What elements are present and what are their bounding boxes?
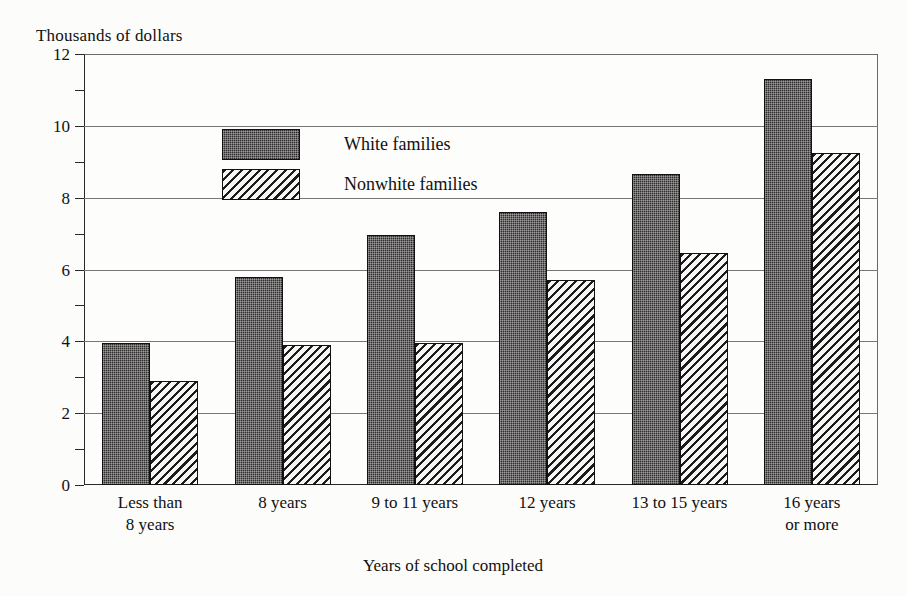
y-tick-label-10: 10	[53, 117, 70, 134]
legend-label-nonwhite-families: Nonwhite families	[344, 174, 477, 195]
x-axis-label-3: 12 years	[481, 492, 613, 514]
y-axis-title: Thousands of dollars	[36, 26, 183, 46]
bar-nonwhite-5	[812, 153, 860, 485]
bar-nonwhite-2	[415, 343, 463, 485]
y-tick-minor-7	[75, 234, 84, 235]
y-tick-label-12: 12	[53, 46, 70, 63]
bar-nonwhite-0	[150, 381, 198, 485]
x-axis-title: Years of school completed	[0, 556, 906, 576]
y-tick-minor-5	[75, 305, 84, 306]
x-axis-label-2: 9 to 11 years	[349, 492, 481, 514]
bar-nonwhite-3	[547, 280, 595, 485]
chart-legend: White families Nonwhite families	[222, 124, 552, 204]
y-tick-10	[75, 126, 84, 127]
gridline-4	[84, 341, 878, 342]
y-tick-minor-9	[75, 162, 84, 163]
bar-white-4	[632, 174, 680, 485]
legend-item-nonwhite-families: Nonwhite families	[222, 164, 552, 204]
bar-white-3	[499, 212, 547, 485]
y-tick-2	[75, 413, 84, 414]
y-tick-label-4: 4	[62, 333, 71, 350]
y-tick-label-6: 6	[62, 261, 71, 278]
bar-white-5	[764, 79, 812, 485]
x-axis-label-4: 13 to 15 years	[613, 492, 745, 514]
bar-white-1	[235, 277, 283, 485]
y-tick-6	[75, 270, 84, 271]
gridline-6	[84, 270, 878, 271]
y-tick-label-2: 2	[62, 405, 71, 422]
bar-chart-figure: Thousands of dollars 024681012 White fam…	[0, 0, 906, 596]
legend-item-white-families: White families	[222, 124, 552, 164]
bar-nonwhite-1	[283, 345, 331, 485]
y-tick-label-0: 0	[62, 477, 71, 494]
x-axis-label-5: 16 years or more	[746, 492, 878, 536]
legend-swatch-white-families	[222, 129, 300, 160]
y-tick-4	[75, 341, 84, 342]
legend-label-white-families: White families	[344, 134, 450, 155]
x-axis-label-1: 8 years	[216, 492, 348, 514]
y-tick-minor-3	[75, 377, 84, 378]
y-tick-12	[75, 54, 84, 55]
y-tick-minor-1	[75, 449, 84, 450]
bar-white-2	[367, 235, 415, 485]
y-tick-minor-11	[75, 90, 84, 91]
y-tick-0	[75, 485, 84, 486]
plot-area: 024681012 White families Nonwhite famili…	[84, 54, 878, 485]
legend-swatch-nonwhite-families	[222, 169, 300, 200]
x-axis-label-0: Less than 8 years	[84, 492, 216, 536]
y-tick-label-8: 8	[62, 189, 71, 206]
bar-nonwhite-4	[680, 253, 728, 485]
gridline-2	[84, 413, 878, 414]
bar-white-0	[102, 343, 150, 485]
y-tick-8	[75, 198, 84, 199]
